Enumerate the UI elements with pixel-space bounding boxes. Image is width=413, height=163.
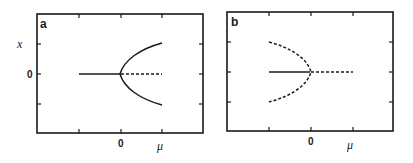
panel-b-label: b xyxy=(231,15,238,29)
panel-a-xlabel: μ xyxy=(156,139,163,153)
bifurcation-figure: a x 0 0 μ b 0 μ xyxy=(0,0,413,163)
panel-b-x-zero-label: 0 xyxy=(308,136,314,147)
panel-a-label: a xyxy=(40,17,47,31)
panel-b-xlabel: μ xyxy=(346,138,353,152)
panel-b: b 0 μ xyxy=(227,12,393,152)
panel-a-ylabel: x xyxy=(16,37,23,51)
panel-a-x-zero-label: 0 xyxy=(118,138,124,149)
panel-a-y-zero-label: 0 xyxy=(27,69,33,80)
panel-a: a x 0 0 μ xyxy=(16,14,203,153)
